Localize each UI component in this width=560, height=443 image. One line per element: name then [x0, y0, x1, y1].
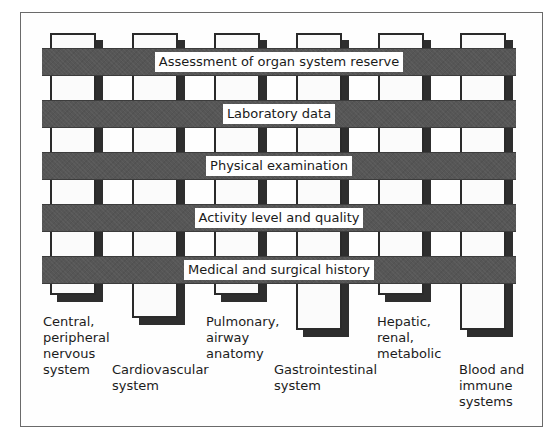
column-blood-immune: [460, 33, 506, 330]
label-gastrointestinal: Gastrointestinal system: [274, 362, 377, 394]
bar-label: Assessment of organ system reserve: [155, 52, 403, 72]
bar-label: Physical examination: [206, 156, 352, 176]
bar-label: Activity level and quality: [195, 208, 364, 228]
bar-medical-surgical-history: Medical and surgical history: [42, 256, 516, 284]
label-pulmonary: Pulmonary, airway anatomy: [206, 314, 279, 362]
label-blood-immune: Blood and immune systems: [459, 362, 524, 410]
bar-label: Laboratory data: [223, 104, 335, 124]
label-cardiovascular: Cardiovascular system: [112, 362, 209, 394]
bar-physical-examination: Physical examination: [42, 152, 516, 180]
column-gastrointestinal: [296, 33, 342, 330]
label-nervous-system: Central, peripheral nervous system: [43, 314, 110, 378]
label-hepatic-renal: Hepatic, renal, metabolic: [377, 314, 441, 362]
bar-laboratory-data: Laboratory data: [42, 100, 516, 128]
bar-label: Medical and surgical history: [184, 260, 374, 280]
bar-organ-system-reserve: Assessment of organ system reserve: [42, 48, 516, 76]
bar-activity-level: Activity level and quality: [42, 204, 516, 232]
